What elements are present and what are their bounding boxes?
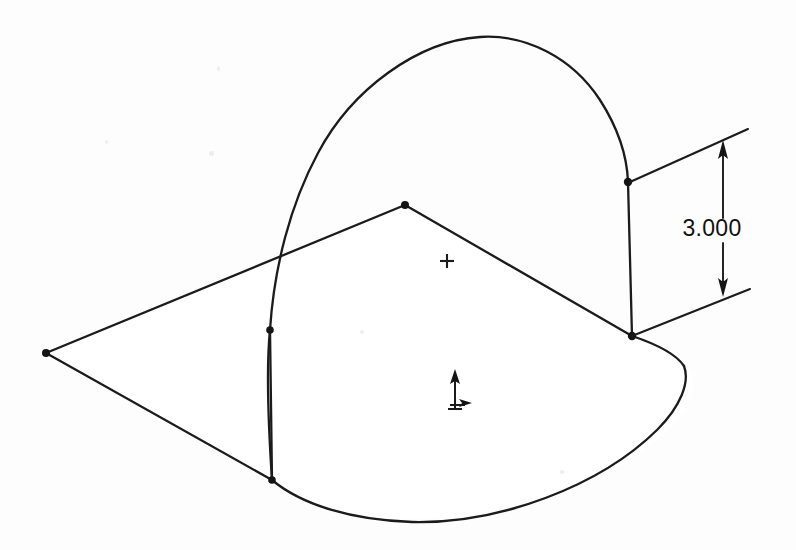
point-left-vertex[interactable]	[42, 349, 50, 357]
lower-extension-line	[632, 289, 750, 336]
edge-right-vertical	[628, 182, 632, 336]
cad-drawing-canvas[interactable]: 3.000	[0, 0, 796, 550]
upper-extension-line	[630, 129, 748, 182]
point-apex[interactable]	[401, 201, 409, 209]
cad-drawing-svg[interactable]: 3.000	[0, 0, 796, 550]
point-left-lower[interactable]	[268, 476, 276, 484]
dimension-value-label[interactable]: 3.000	[682, 215, 741, 241]
model-faces	[46, 205, 693, 519]
height-dimension[interactable]: 3.000	[682, 140, 741, 297]
point-left-upper[interactable]	[266, 326, 274, 334]
base-ellipse-face	[46, 205, 693, 519]
